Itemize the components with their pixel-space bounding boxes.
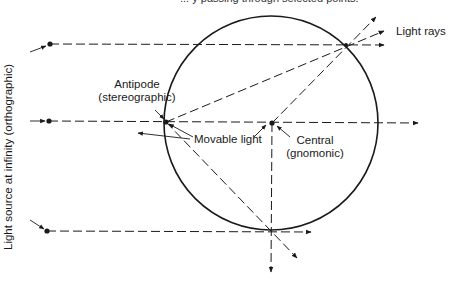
- label-antipode: Antipode (stereographic): [92, 78, 182, 104]
- ortho-ray-top: [50, 44, 384, 45]
- source-point-bottom: [44, 228, 49, 233]
- gnomonic-ray-down: [271, 123, 272, 272]
- leader-source-top: [30, 46, 46, 52]
- top-right-point: [344, 43, 348, 47]
- label-antipode-line2: (stereographic): [92, 91, 182, 104]
- center-point: [269, 120, 274, 125]
- source-point-top: [47, 41, 52, 46]
- label-central: Central (gnomonic): [280, 134, 350, 160]
- antipode-point: [163, 119, 168, 124]
- leader-antipode: [155, 110, 164, 119]
- leader-source-bottom: [30, 220, 44, 229]
- label-light-rays: Light rays: [396, 25, 446, 38]
- figure-caption-cutoff: ... y passing through selected points.: [180, 0, 359, 4]
- label-antipode-line1: Antipode: [92, 78, 182, 91]
- source-point-middle: [46, 118, 51, 123]
- label-light-source-infinity: Light source at infinity (orthographic): [2, 64, 14, 250]
- label-central-line2: (gnomonic): [280, 147, 350, 160]
- gnomonic-ray-up: [272, 17, 376, 123]
- ortho-ray-middle: [49, 121, 418, 123]
- label-central-line1: Central: [280, 134, 350, 147]
- label-movable-light: Movable light: [194, 133, 262, 146]
- leader-movable-light: [169, 124, 193, 137]
